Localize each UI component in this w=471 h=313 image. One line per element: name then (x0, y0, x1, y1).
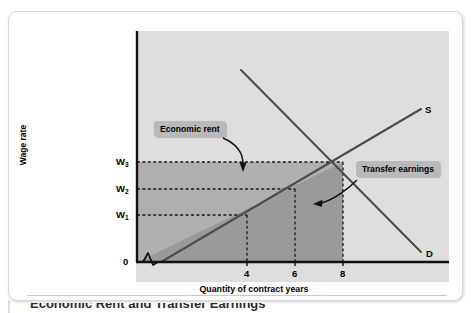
y-tick-w2-sub: 2 (125, 188, 129, 195)
y-tick-label-w3: W3 (116, 157, 129, 167)
x-axis-title: Quantity of contract years (129, 284, 379, 294)
y-tick-w1-base: W (116, 209, 125, 220)
y-tick-w1-sub: 1 (125, 214, 129, 221)
y-tick-w3-sub: 3 (125, 161, 129, 168)
y-axis-title: Wage rate (18, 115, 28, 175)
chart-svg (9, 12, 463, 301)
callout-economic-rent: Economic rent (154, 121, 226, 137)
caption-divider (27, 295, 447, 296)
y-tick-w3-base: W (116, 156, 125, 167)
x-tick-label-8: 8 (340, 269, 345, 279)
demand-curve-label: D (426, 249, 433, 259)
chart-plot-area: Wage rate 0 W3 W2 W1 4 6 8 S D Economic … (9, 12, 463, 301)
origin-label: 0 (123, 257, 128, 267)
y-tick-w2-base: W (116, 183, 125, 194)
supply-curve-label: S (425, 105, 431, 115)
figure-caption-strip: Economic Rent and Transfer Earnings (0, 303, 471, 313)
figure-card: Wage rate 0 W3 W2 W1 4 6 8 S D Economic … (8, 11, 463, 301)
figure-caption: Economic Rent and Transfer Earnings (30, 303, 266, 311)
y-tick-label-w1: W1 (116, 210, 129, 220)
x-tick-label-6: 6 (292, 269, 297, 279)
x-tick-label-4: 4 (244, 269, 249, 279)
callout-transfer-earnings: Transfer earnings (356, 161, 440, 177)
y-tick-label-w2: W2 (116, 184, 129, 194)
